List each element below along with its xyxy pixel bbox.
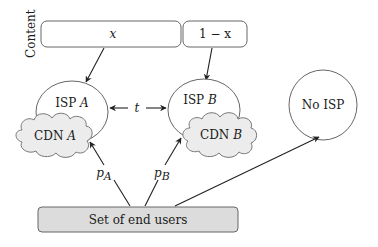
p-a-label: pA bbox=[96, 166, 112, 183]
cdn-b-cloud: CDN B bbox=[183, 113, 257, 158]
arrow-content-to-isp-a bbox=[86, 48, 104, 82]
no-isp-label: No ISP bbox=[302, 98, 345, 112]
end-users-box: Set of end users bbox=[38, 207, 238, 232]
isp-link-label: t bbox=[135, 101, 140, 115]
no-isp-node: No ISP bbox=[289, 70, 357, 140]
content-axis-label: Content bbox=[24, 9, 38, 58]
cdn-a-label: CDN A bbox=[34, 129, 76, 143]
arrow-users-to-isp-b bbox=[165, 138, 181, 165]
arrow-content-to-isp-b bbox=[206, 48, 212, 80]
arrow-users-to-isp-a bbox=[90, 142, 104, 165]
isp-a-label: ISP A bbox=[55, 96, 89, 110]
isp-b-label: ISP B bbox=[183, 93, 217, 107]
cdn-b-label: CDN B bbox=[200, 128, 242, 142]
content-box-x-label: x bbox=[110, 27, 117, 41]
p-b-label: pB bbox=[154, 166, 170, 183]
content-box-one-minus-x: 1 − x bbox=[183, 21, 247, 47]
edge-users-to-isp-b-lower bbox=[145, 180, 158, 206]
end-users-label: Set of end users bbox=[89, 213, 188, 227]
content-box-x: x bbox=[41, 21, 181, 47]
cdn-a-cloud: CDN A bbox=[16, 113, 92, 157]
content-box-one-minus-x-label: 1 − x bbox=[199, 27, 231, 41]
edge-users-to-isp-a-lower bbox=[114, 180, 130, 206]
network-diagram: Content x 1 − x ISP A CDN A ISP B CDN B bbox=[0, 0, 378, 247]
